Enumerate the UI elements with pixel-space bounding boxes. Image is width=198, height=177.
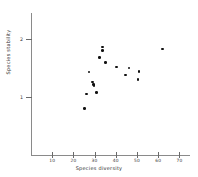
scatter-plot-figure: 10203040506070 12 Species diversity Spec… — [0, 0, 198, 177]
data-point — [128, 67, 131, 70]
data-point — [88, 71, 91, 74]
data-point — [95, 91, 98, 94]
data-point — [115, 66, 118, 69]
x-axis-label: Species diversity — [0, 165, 198, 171]
y-axis-label: Species stability — [5, 17, 11, 87]
data-point — [137, 78, 140, 81]
data-point — [161, 48, 164, 51]
data-point — [93, 84, 96, 87]
data-points-layer — [0, 0, 198, 177]
data-point — [138, 70, 141, 73]
data-point — [104, 61, 107, 64]
data-point — [101, 46, 104, 49]
data-point — [101, 49, 104, 52]
data-point — [85, 93, 88, 96]
data-point — [124, 74, 127, 77]
data-point — [98, 56, 101, 59]
data-point — [83, 107, 86, 110]
